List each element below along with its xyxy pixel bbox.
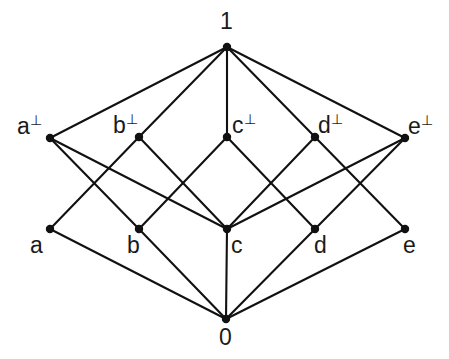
node-label-base: 1 [220, 8, 233, 34]
node-label-one: 1 [220, 10, 233, 33]
lattice-edge [50, 138, 227, 229]
node-label-b: b [127, 234, 140, 257]
node-label-base: a [17, 113, 30, 139]
node-label-d: d [314, 234, 327, 257]
lattice-edge [139, 229, 226, 319]
lattice-node-c_perp [223, 133, 230, 140]
lattice-node-c [223, 225, 230, 232]
node-label-zero: 0 [219, 326, 232, 349]
node-label-base: a [30, 232, 43, 258]
node-label-e: e [403, 234, 416, 257]
node-label-c: c [231, 234, 243, 257]
node-label-c_perp: c⊥ [232, 112, 256, 137]
node-label-a: a [30, 234, 43, 257]
node-label-d_perp: d⊥ [318, 112, 343, 137]
lattice-node-a [46, 225, 53, 232]
perp-icon: ⊥ [126, 111, 138, 127]
node-label-b_perp: b⊥ [113, 112, 138, 137]
node-label-base: e [408, 113, 421, 139]
node-label-base: 0 [219, 324, 232, 350]
lattice-edge [227, 138, 405, 229]
node-label-e_perp: e⊥ [408, 113, 433, 138]
lattice-graph [0, 0, 449, 359]
lattice-edge [226, 229, 227, 319]
node-label-base: d [318, 112, 331, 138]
lattice-node-zero [222, 315, 229, 322]
node-label-base: b [113, 112, 126, 138]
hasse-diagram: 1a⊥b⊥c⊥d⊥e⊥abcde0 [0, 0, 449, 359]
node-label-base: d [314, 232, 327, 258]
perp-icon: ⊥ [244, 111, 256, 127]
edges-group [50, 47, 405, 319]
perp-icon: ⊥ [421, 112, 433, 128]
node-label-base: c [231, 232, 243, 258]
node-label-base: e [403, 232, 416, 258]
perp-icon: ⊥ [30, 112, 42, 128]
perp-icon: ⊥ [331, 111, 343, 127]
node-label-base: b [127, 232, 140, 258]
lattice-node-a_perp [46, 134, 53, 141]
node-label-a_perp: a⊥ [17, 113, 42, 138]
lattice-edge [139, 47, 227, 137]
lattice-edge [50, 47, 227, 138]
node-label-base: c [232, 112, 244, 138]
lattice-node-one [223, 43, 230, 50]
